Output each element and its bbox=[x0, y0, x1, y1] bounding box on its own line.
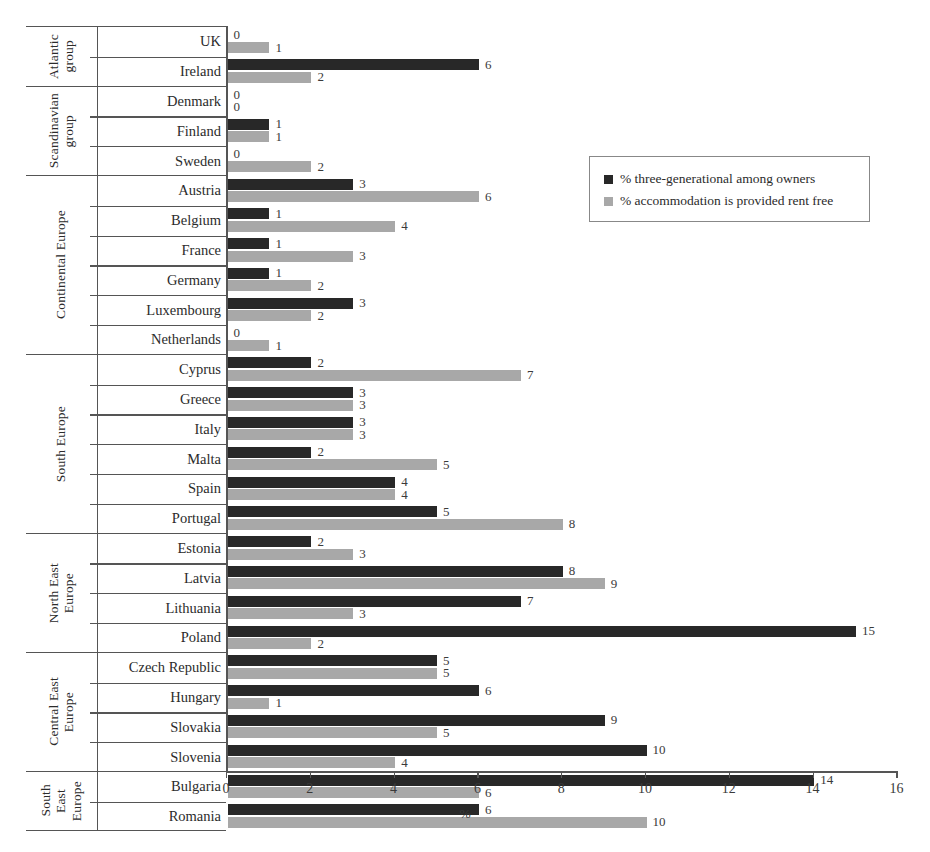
bar-value-label: 7 bbox=[521, 593, 534, 609]
bar-value-label: 4 bbox=[395, 486, 408, 502]
bar-rect bbox=[228, 370, 521, 381]
bar-rect bbox=[228, 179, 354, 190]
region-group-label: Central EastEurope bbox=[26, 653, 98, 771]
bar-rect bbox=[228, 42, 270, 53]
bar-value-label: 1 bbox=[269, 205, 282, 221]
bar-value-label: 15 bbox=[856, 623, 875, 639]
bar-value-label: 6 bbox=[479, 56, 492, 72]
bar-dark: 6 bbox=[228, 59, 479, 70]
bar-value-label: 2 bbox=[311, 278, 324, 294]
country-row: Slovakia bbox=[98, 712, 226, 742]
bar-light: 6 bbox=[228, 191, 479, 202]
legend-item: % three-generational among owners bbox=[604, 168, 869, 190]
bar-value-label: 1 bbox=[269, 337, 282, 353]
legend-label: % three-generational among owners bbox=[620, 171, 815, 187]
bar-light: 8 bbox=[228, 519, 563, 530]
bar-rect bbox=[228, 280, 312, 291]
bar-rect bbox=[228, 757, 396, 768]
bar-light: 2 bbox=[228, 638, 312, 649]
country-row: UK bbox=[98, 27, 226, 57]
plot-area: 0162001102361413123201273333254458238973… bbox=[226, 26, 930, 771]
region-group-label-line: group bbox=[62, 40, 76, 73]
bar-light: 5 bbox=[228, 668, 438, 679]
bar-rect bbox=[228, 357, 312, 368]
x-axis-tick bbox=[226, 771, 227, 778]
bar-value-label: 0 bbox=[228, 146, 241, 162]
bar-light: 1 bbox=[228, 42, 270, 53]
country-row-list: Czech RepublicHungarySlovakiaSlovenia bbox=[98, 653, 226, 772]
x-axis-tick bbox=[645, 771, 646, 778]
x-axis-tick-label: 8 bbox=[558, 781, 565, 797]
bar-rect bbox=[228, 310, 312, 321]
country-label: Bulgaria bbox=[171, 778, 221, 795]
legend-label: % accommodation is provided rent free bbox=[620, 193, 833, 209]
x-axis-tick bbox=[394, 771, 395, 778]
bar-dark: 2 bbox=[228, 536, 312, 547]
x-axis-tick bbox=[561, 771, 562, 778]
bar-rect bbox=[228, 655, 438, 666]
bar-value-label: 1 bbox=[269, 235, 282, 251]
bar-value-label: 0 bbox=[228, 99, 241, 115]
bar-value-label: 0 bbox=[228, 27, 241, 43]
region-group: South EuropeCyprusGreeceItalyMaltaSpainP… bbox=[26, 354, 226, 533]
bar-light: 1 bbox=[228, 698, 270, 709]
bar-group: 55 bbox=[226, 652, 930, 682]
bar-value-label: 3 bbox=[353, 546, 366, 562]
bar-dark: 1 bbox=[228, 238, 270, 249]
country-label: Ireland bbox=[180, 63, 221, 80]
bar-rect bbox=[228, 238, 270, 249]
region-group-label-line: group bbox=[62, 115, 76, 148]
country-label: Luxembourg bbox=[146, 302, 221, 319]
bar-value-label: 1 bbox=[269, 265, 282, 281]
bar-rect bbox=[228, 447, 312, 458]
bar-rect bbox=[228, 459, 438, 470]
country-row: Spain bbox=[98, 474, 226, 504]
country-label: Lithuania bbox=[165, 600, 221, 617]
bar-dark: 3 bbox=[228, 179, 354, 190]
bar-light: 2 bbox=[228, 310, 312, 321]
bar-dark: 3 bbox=[228, 387, 354, 398]
bar-group: 152 bbox=[226, 622, 930, 652]
country-label: Portugal bbox=[172, 510, 221, 527]
bar-value-label: 2 bbox=[311, 69, 324, 85]
category-label-column: AtlanticgroupUKIrelandScandinaviangroupD… bbox=[26, 26, 226, 771]
x-axis-tick-label: 14 bbox=[806, 781, 820, 797]
bar-value-label: 5 bbox=[437, 725, 450, 741]
country-row: Ireland bbox=[98, 57, 226, 87]
bar-rect bbox=[228, 417, 354, 428]
country-label: Germany bbox=[167, 272, 221, 289]
region-group-label-line: Europe bbox=[62, 573, 76, 613]
bar-dark: 1 bbox=[228, 208, 270, 219]
region-group: Central EastEuropeCzech RepublicHungaryS… bbox=[26, 652, 226, 771]
country-row: Cyprus bbox=[98, 355, 226, 385]
bar-light: 2 bbox=[228, 280, 312, 291]
bar-group: 62 bbox=[226, 56, 930, 86]
country-row-list: EstoniaLatviaLithuaniaPoland bbox=[98, 534, 226, 653]
country-row: Estonia bbox=[98, 534, 226, 564]
bar-dark: 9 bbox=[228, 715, 605, 726]
bar-value-label: 4 bbox=[395, 754, 408, 770]
bar-rect bbox=[228, 549, 354, 560]
x-axis-tick bbox=[896, 771, 897, 778]
bar-value-label: 7 bbox=[521, 367, 534, 383]
legend-swatch-icon bbox=[604, 197, 613, 206]
bar-rect bbox=[228, 161, 312, 172]
bar-rect bbox=[228, 715, 605, 726]
x-axis-tick-label: 4 bbox=[390, 781, 397, 797]
country-label: Finland bbox=[177, 123, 221, 140]
bar-light: 5 bbox=[228, 459, 438, 470]
bar-group: 33 bbox=[226, 384, 930, 414]
bar-group: 95 bbox=[226, 711, 930, 741]
bar-group: 25 bbox=[226, 443, 930, 473]
bar-rect bbox=[228, 489, 396, 500]
grouped-bar-chart: AtlanticgroupUKIrelandScandinaviangroupD… bbox=[0, 0, 930, 852]
bar-rect bbox=[228, 131, 270, 142]
bar-dark: 4 bbox=[228, 477, 396, 488]
country-label: Denmark bbox=[167, 93, 221, 110]
country-row: Latvia bbox=[98, 563, 226, 593]
bar-value-label: 5 bbox=[437, 456, 450, 472]
country-label: Malta bbox=[187, 451, 221, 468]
bar-light: 3 bbox=[228, 251, 354, 262]
bar-rect bbox=[228, 59, 479, 70]
country-row-list: CyprusGreeceItalyMaltaSpainPortugal bbox=[98, 355, 226, 534]
